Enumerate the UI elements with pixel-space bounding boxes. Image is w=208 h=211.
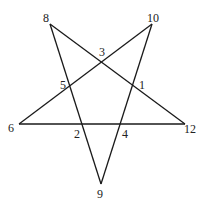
outer-label-12: 12 [184, 122, 196, 136]
edge-8-12 [50, 24, 185, 124]
edge-8-9 [50, 24, 101, 184]
outer-label-9: 9 [97, 187, 103, 201]
outer-label-10: 10 [147, 11, 159, 25]
inner-label-1: 1 [139, 78, 145, 92]
edge-10-9 [101, 24, 152, 184]
inner-label-5: 5 [60, 78, 66, 92]
edge-10-6 [19, 24, 152, 124]
pentagram-diagram: 810612935124 [0, 0, 208, 211]
labels-group: 810612935124 [8, 11, 196, 201]
inner-label-2: 2 [74, 127, 80, 141]
inner-label-4: 4 [122, 127, 128, 141]
outer-label-6: 6 [8, 121, 14, 135]
outer-label-8: 8 [43, 11, 49, 25]
inner-label-3: 3 [99, 45, 105, 59]
